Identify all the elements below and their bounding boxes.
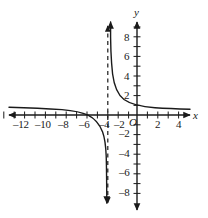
- y-tick-label-neg8: –8: [119, 187, 129, 198]
- y-tick-label-neg2: –2: [119, 128, 129, 139]
- y-tick-label-4: 4: [124, 71, 129, 82]
- y-tick-label-6: 6: [124, 51, 129, 62]
- y-axis-label: y: [134, 7, 139, 18]
- curve-right-branch: [111, 22, 190, 109]
- x-tick-label-neg6: –6: [79, 119, 89, 130]
- x-tick-label-neg12: –12: [13, 119, 29, 130]
- x-tick-label-neg4: –4: [99, 119, 109, 130]
- rational-function-plot: [0, 0, 208, 218]
- y-tick-label-8: 8: [124, 32, 129, 43]
- x-tick-label-4: 4: [176, 119, 181, 130]
- y-tick-label-2: 2: [124, 90, 129, 101]
- graph-figure: –12 –10 –8 –6 –4 –2 2 4 8 6 4 2 –2 –4 –6…: [0, 0, 208, 218]
- x-axis-label: x: [193, 110, 198, 121]
- x-axis: [4, 112, 190, 119]
- x-tick-label-neg8: –8: [58, 119, 68, 130]
- origin-label: O: [129, 117, 137, 128]
- y-tick-label-neg6: –6: [119, 167, 129, 178]
- x-tick-label-2: 2: [155, 119, 160, 130]
- y-tick-label-neg4: –4: [119, 148, 129, 159]
- x-tick-label-neg10: –10: [35, 119, 51, 130]
